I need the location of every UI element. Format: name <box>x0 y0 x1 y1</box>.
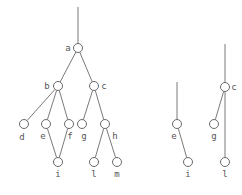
node-label-f: f <box>67 131 72 141</box>
edge-c-h <box>95 90 103 119</box>
node-c <box>221 83 230 92</box>
node-l <box>90 158 99 167</box>
node-m <box>113 158 122 167</box>
edge-e-i <box>47 128 56 157</box>
edge-a-c <box>80 52 93 82</box>
node-c <box>90 82 99 91</box>
node-a <box>74 44 83 53</box>
node-label-l: l <box>222 169 227 179</box>
node-b <box>54 82 63 91</box>
edge-a-b <box>60 52 76 82</box>
main-graph: abcdefghilm <box>19 7 121 179</box>
node-g <box>210 120 219 129</box>
node-label-a: a <box>65 43 70 53</box>
edge-b-f <box>59 90 67 119</box>
node-g <box>78 120 87 129</box>
edge-h-l <box>95 128 103 157</box>
node-e <box>42 120 51 129</box>
node-h <box>101 120 110 129</box>
edge-c-g <box>83 90 92 119</box>
subgraph-c-g-l: cgl <box>210 44 237 179</box>
node-label-c: c <box>231 82 236 92</box>
node-d <box>20 120 29 129</box>
node-e <box>173 120 182 129</box>
node-label-l: l <box>91 169 96 179</box>
edge-b-d <box>27 89 55 120</box>
node-label-g: g <box>211 131 216 141</box>
node-label-e: e <box>40 131 45 141</box>
node-i <box>184 158 193 167</box>
node-label-i: i <box>185 169 190 179</box>
node-l <box>221 158 230 167</box>
edge-c-g <box>215 91 223 119</box>
tree-diagram: abcdefghilmeicgl <box>0 0 242 195</box>
node-label-c: c <box>101 81 106 91</box>
node-label-b: b <box>44 81 49 91</box>
node-i <box>54 158 63 167</box>
node-label-m: m <box>114 169 119 179</box>
subgraph-e-i: ei <box>171 82 192 179</box>
node-label-i: i <box>55 169 60 179</box>
edge-e-i <box>178 128 186 157</box>
node-label-d: d <box>19 132 24 142</box>
edge-b-e <box>47 90 56 119</box>
node-f <box>65 120 74 129</box>
node-label-e: e <box>171 131 176 141</box>
node-label-h: h <box>112 131 117 141</box>
node-label-g: g <box>81 131 86 141</box>
